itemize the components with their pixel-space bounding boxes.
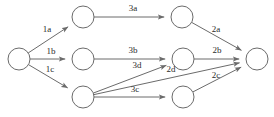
sink-node: [246, 48, 268, 70]
graph-canvas: 1a1b1c3a3b3c3d2a2b2c2d: [0, 0, 274, 117]
top-right-node: [171, 6, 193, 28]
top-middle-node: [72, 6, 94, 28]
graph-diagram: 1a1b1c3a3b3c3d2a2b2c2d: [0, 0, 274, 117]
edge-label-2d: 2d: [167, 64, 177, 74]
edge-label-2c: 2c: [212, 70, 221, 80]
bottom-left-node: [72, 86, 94, 108]
edge-label-1c: 1c: [46, 64, 55, 74]
bottom-right-node: [172, 86, 194, 108]
edge-label-3b: 3b: [129, 45, 139, 55]
edge-label-2b: 2b: [213, 45, 223, 55]
edge-label-2a: 2a: [212, 24, 221, 34]
edge-label-1a: 1a: [43, 24, 52, 34]
edge-label-3c: 3c: [131, 84, 140, 94]
edge-label-1b: 1b: [47, 46, 57, 56]
source-node: [8, 48, 30, 70]
edge-label-3a: 3a: [129, 3, 138, 13]
edge-label-3d: 3d: [133, 60, 143, 70]
middle-middle-node: [72, 48, 94, 70]
